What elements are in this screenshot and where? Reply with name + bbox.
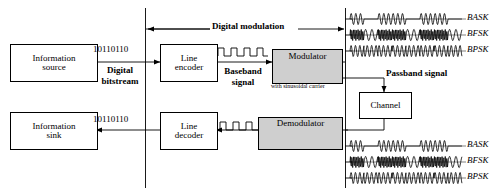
label-bpsk-top: BPSK: [467, 45, 489, 55]
line-decoder-line2: decoder: [175, 131, 203, 140]
block-modulator[interactable]: Modulator: [272, 49, 343, 84]
block-line-encoder[interactable]: Line encoder: [160, 44, 218, 82]
label-bask-top: BASK: [467, 13, 489, 23]
info-source-line2: source: [33, 63, 76, 72]
label-digital-modulation: Digital modulation: [212, 22, 284, 32]
waveform-bfsk-bottom: [350, 156, 462, 167]
block-information-sink[interactable]: Information sink: [10, 112, 98, 150]
label-baseband-l1: Baseband: [212, 67, 274, 77]
label-baseband-l2: signal: [212, 78, 274, 88]
baseband-waveform-top: [218, 48, 268, 56]
baseband-waveform-bottom: [214, 122, 258, 130]
label-passband-signal: Passband signal: [386, 69, 447, 79]
line-encoder-line2: encoder: [175, 63, 203, 72]
demodulator-label: Demodulator: [277, 119, 325, 128]
block-information-source[interactable]: Information source: [10, 44, 98, 82]
label-bitstream-bottom: 10110110: [93, 115, 128, 125]
label-bfsk-top: BFSK: [467, 29, 489, 39]
label-digital-bitstream-l2: bitstream: [86, 77, 154, 87]
label-bpsk-bottom: BPSK: [467, 172, 489, 182]
label-sinusoidal-carrier: with sinusoidal carrier: [271, 83, 325, 90]
label-bitstream-top: 10110110: [93, 45, 128, 55]
block-channel[interactable]: Channel: [359, 92, 412, 119]
label-bfsk-bottom: BFSK: [467, 156, 489, 166]
info-sink-line2: sink: [33, 131, 76, 140]
diagram-canvas: Information source Line encoder Modulato…: [0, 0, 501, 195]
waveform-bfsk-top: [350, 29, 462, 40]
label-digital-bitstream-l1: Digital: [90, 66, 150, 76]
label-bask-bottom: BASK: [467, 140, 489, 150]
modulator-label: Modulator: [289, 52, 327, 61]
block-demodulator[interactable]: Demodulator: [258, 117, 343, 150]
block-line-decoder[interactable]: Line decoder: [160, 112, 218, 150]
channel-label: Channel: [371, 101, 401, 110]
